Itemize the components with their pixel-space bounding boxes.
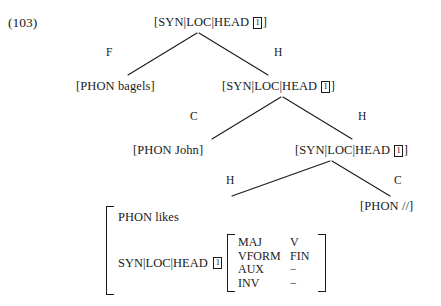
edge-root-head xyxy=(199,33,268,75)
structure-tag-1: 1 xyxy=(394,145,403,157)
avm-row-phon: PHON likes xyxy=(118,209,326,234)
avm-attr-vform: VFORM xyxy=(238,250,290,264)
avm-attr-inv: INV xyxy=(238,277,290,291)
structure-tag-1: 1 xyxy=(253,17,262,29)
avm-value-maj: V xyxy=(290,236,316,250)
avm-inner-close-bracket xyxy=(318,234,326,292)
node-vp-suffix: ] xyxy=(404,143,408,157)
avm-feature-row: MAJ V xyxy=(238,236,316,250)
node-s-suffix: ] xyxy=(331,79,335,93)
avm-value-aux: − xyxy=(290,263,316,277)
avm-inner-body: MAJ V VFORM FIN AUX − INV xyxy=(235,234,318,292)
edge-s-complement xyxy=(212,97,281,139)
avm-feature-row: VFORM FIN xyxy=(238,250,316,264)
tree-leaf-bagels: [PHON bagels] xyxy=(76,80,155,93)
edge-vp-complement xyxy=(332,161,390,196)
branch-label-vp-head: H xyxy=(226,175,234,187)
avm-attr-aux: AUX xyxy=(238,263,290,277)
structure-tag-1: 1 xyxy=(321,81,330,93)
edge-vp-head xyxy=(232,161,330,196)
branch-label-subject-complement: C xyxy=(190,111,198,123)
branch-label-filler: F xyxy=(106,47,112,59)
avm-row-head: SYN|LOC|HEAD 1 MAJ V VFORM FIN xyxy=(118,234,326,292)
tree-node-root: [SYN|LOC|HEAD 1] xyxy=(154,16,267,29)
branch-label-root-head: H xyxy=(274,47,282,59)
figure-canvas: (103) [SYN|LOC|HEAD 1] F H [PHON bagels]… xyxy=(0,0,441,306)
tree-node-s: [SYN|LOC|HEAD 1] xyxy=(222,80,335,93)
avm-attr-phon: PHON xyxy=(118,210,152,225)
avm-body: PHON likes SYN|LOC|HEAD 1 MAJ V xyxy=(114,206,330,295)
avm-feature-row: AUX − xyxy=(238,263,316,277)
avm-value-vform: FIN xyxy=(290,250,316,264)
node-s-prefix: [SYN|LOC|HEAD xyxy=(222,79,320,93)
branch-label-s-head: H xyxy=(358,111,366,123)
avm-value-phon: likes xyxy=(155,210,179,225)
avm-value-inv: − xyxy=(290,277,316,291)
node-root-prefix: [SYN|LOC|HEAD xyxy=(154,15,252,29)
avm-open-bracket xyxy=(106,206,114,295)
avm-likes: PHON likes SYN|LOC|HEAD 1 MAJ V xyxy=(106,206,338,295)
edge-s-head xyxy=(283,97,352,139)
tree-leaf-john: [PHON John] xyxy=(133,144,203,157)
example-number: (103) xyxy=(8,16,37,30)
avm-attr-head-path: SYN|LOC|HEAD xyxy=(118,256,208,271)
node-root-suffix: ] xyxy=(263,15,267,29)
avm-inner-open-bracket xyxy=(227,234,235,292)
avm-attr-maj: MAJ xyxy=(238,236,290,250)
node-vp-prefix: [SYN|LOC|HEAD xyxy=(295,143,393,157)
edge-root-filler xyxy=(128,33,197,75)
avm-feature-row: INV − xyxy=(238,277,316,291)
structure-tag-1: 1 xyxy=(213,257,222,269)
tree-leaf-trace: [PHON //] xyxy=(360,200,413,213)
tree-node-vp: [SYN|LOC|HEAD 1] xyxy=(295,144,408,157)
branch-label-trace-complement: C xyxy=(394,175,402,187)
avm-inner-head-features: MAJ V VFORM FIN AUX − INV xyxy=(227,234,326,292)
